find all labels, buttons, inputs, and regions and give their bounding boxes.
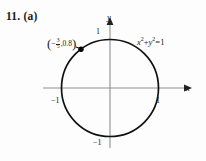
fraction-denominator: 5 <box>56 44 60 50</box>
point-marker <box>78 47 83 52</box>
point-x-sign: − <box>51 40 56 48</box>
x-axis-label: x <box>186 84 190 93</box>
unit-circle-figure <box>0 0 206 161</box>
curve-equation-label: x2+y2=1 <box>137 38 164 47</box>
equation-rhs: 1 <box>160 37 164 47</box>
tick-label-x-negative-one: −1 <box>51 97 60 105</box>
point-y-value: 0.8 <box>63 40 72 48</box>
point-coordinate-label: (−35,0.8) <box>47 38 76 50</box>
tick-label-x-positive-one: 1 <box>156 97 160 105</box>
point-close-paren: ) <box>72 38 76 49</box>
tick-label-y-positive-one: 1 <box>96 28 100 36</box>
figure-page: 11. (a) y x 1 −1 1 −1 x2+y2=1 (−35,0.8) <box>0 0 206 161</box>
tick-label-y-negative-one: −1 <box>93 139 102 147</box>
point-x-fraction: 35 <box>56 38 60 50</box>
y-axis-label: y <box>107 13 111 22</box>
